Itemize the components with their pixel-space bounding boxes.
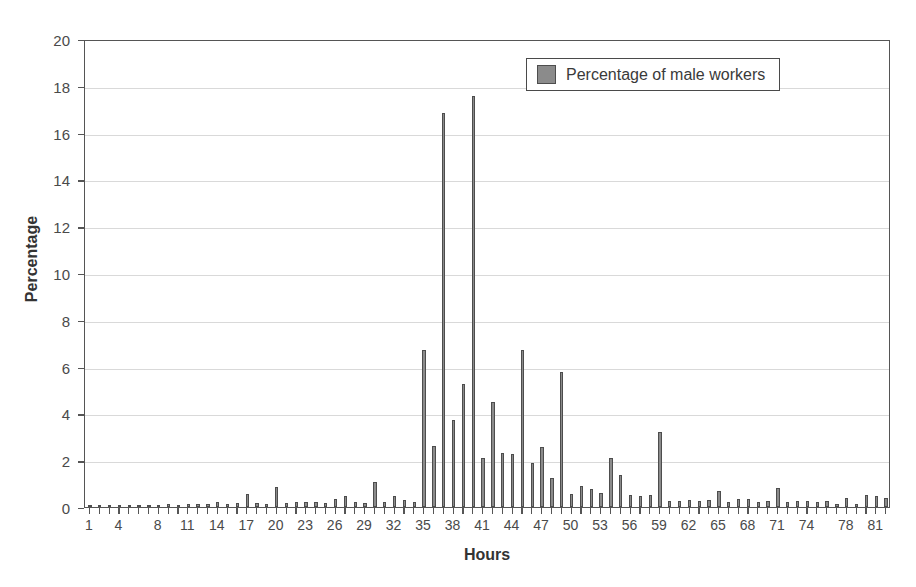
x-axis-tickmark: [865, 508, 866, 514]
bar: [236, 503, 239, 507]
x-axis-tickmark: [177, 508, 178, 514]
y-axis-tick-label: 6: [62, 359, 70, 376]
x-axis-tickmark: [531, 508, 532, 514]
bar: [108, 505, 111, 507]
bar: [216, 502, 219, 507]
x-axis-tickmark: [718, 508, 719, 514]
x-axis-tickmark: [797, 508, 798, 514]
x-axis-tickmark: [541, 508, 542, 514]
x-axis-tick-label: 41: [474, 517, 490, 533]
x-axis-tick-label: 32: [386, 517, 402, 533]
bar: [727, 502, 730, 507]
bar: [521, 350, 524, 507]
x-axis-tickmark: [590, 508, 591, 514]
y-axis-tick-label: 4: [62, 406, 70, 423]
bar: [540, 447, 543, 507]
x-axis-tickmark: [826, 508, 827, 514]
chart-legend: Percentage of male workers: [526, 58, 780, 91]
bar: [157, 505, 160, 507]
bar: [688, 500, 691, 507]
bar: [875, 496, 878, 507]
x-axis-tickmark: [551, 508, 552, 514]
x-axis-tickmark: [286, 508, 287, 514]
bar: [560, 372, 563, 507]
bar: [619, 475, 622, 507]
x-axis-tickmark: [384, 508, 385, 514]
x-axis-tickmark: [521, 508, 522, 514]
x-axis-tickmark: [227, 508, 228, 514]
x-axis-tickmark: [423, 508, 424, 514]
x-axis-tickmark: [197, 508, 198, 514]
x-axis-tick-label: 78: [838, 517, 854, 533]
bar: [511, 454, 514, 507]
bar: [413, 502, 416, 507]
bar: [334, 499, 337, 507]
x-axis-tick-label: 8: [154, 517, 162, 533]
x-axis-tick-label: 59: [651, 517, 667, 533]
x-axis-tickmark: [413, 508, 414, 514]
x-axis-tickmark: [374, 508, 375, 514]
bar: [295, 502, 298, 507]
bar: [265, 504, 268, 508]
x-axis-tickmark: [433, 508, 434, 514]
x-axis-tick-label: 35: [415, 517, 431, 533]
x-axis-tick-label: 81: [867, 517, 883, 533]
x-axis-tick-label: 53: [592, 517, 608, 533]
x-axis-tickmark: [571, 508, 572, 514]
y-axis-tick-label: 10: [53, 266, 70, 283]
bar: [501, 453, 504, 507]
chart-container: Percentage 02468101214161820 14811141720…: [0, 0, 916, 587]
x-axis-tickmark: [757, 508, 758, 514]
bar: [639, 496, 642, 507]
bar: [363, 503, 366, 507]
bar: [275, 487, 278, 507]
bar: [668, 501, 671, 507]
x-axis-tickmark: [168, 508, 169, 514]
x-axis-tickmark: [512, 508, 513, 514]
bar: [226, 504, 229, 508]
x-axis-tickmark: [354, 508, 355, 514]
bar: [177, 505, 180, 507]
bar: [442, 113, 445, 507]
x-axis-tickmark: [698, 508, 699, 514]
x-axis-tickmark: [482, 508, 483, 514]
x-axis-tickmark: [846, 508, 847, 514]
legend-swatch-icon: [537, 65, 556, 84]
bar: [649, 495, 652, 507]
bar: [816, 502, 819, 507]
x-axis-tickmark: [580, 508, 581, 514]
y-axis-tick-label: 18: [53, 78, 70, 95]
x-axis-tickmark: [816, 508, 817, 514]
legend-label: Percentage of male workers: [566, 66, 765, 84]
x-axis-tickmark: [777, 508, 778, 514]
x-axis-tickmark: [276, 508, 277, 514]
x-axis-tickmark: [453, 508, 454, 514]
x-axis-tick-label: 4: [114, 517, 122, 533]
bar: [255, 503, 258, 507]
x-axis-tick-label: 56: [622, 517, 638, 533]
x-axis-tickmark: [295, 508, 296, 514]
bar: [128, 505, 131, 507]
bar: [599, 493, 602, 507]
bar: [88, 505, 91, 507]
bar: [698, 501, 701, 507]
x-axis-tickmark: [561, 508, 562, 514]
y-axis-tick-label: 16: [53, 125, 70, 142]
x-axis-tickmark: [158, 508, 159, 514]
bar: [806, 501, 809, 507]
bar: [344, 496, 347, 507]
y-axis-labels: 02468101214161820: [30, 40, 78, 508]
x-axis-tickmark: [630, 508, 631, 514]
x-axis-tick-label: 11: [180, 517, 195, 533]
x-axis-tickmark: [639, 508, 640, 514]
bar: [550, 478, 553, 507]
x-axis-tickmark: [767, 508, 768, 514]
x-axis-tickmark: [335, 508, 336, 514]
x-axis-tickmark: [659, 508, 660, 514]
x-axis-tick-label: 26: [327, 517, 343, 533]
x-axis-tickmark: [728, 508, 729, 514]
bar: [206, 504, 209, 508]
y-axis-tick-label: 8: [62, 312, 70, 329]
bar: [825, 501, 828, 507]
x-axis-tick-label: 44: [504, 517, 520, 533]
